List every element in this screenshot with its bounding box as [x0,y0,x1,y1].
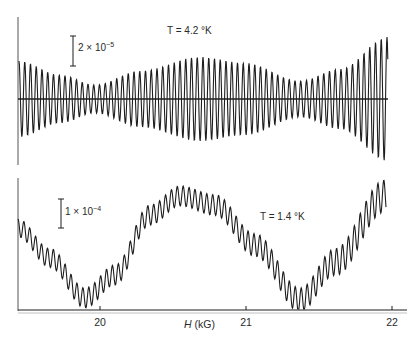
top-scale-bar: 2 × 10−5 [70,36,114,66]
top-scale-exponent: −5 [106,41,114,48]
top-panel: 2 × 10−5 T = 4.2 °K [18,17,388,165]
figure: 2 × 10−5 T = 4.2 °K 1 × 10−4 T = 1.4 °K … [0,0,417,347]
svg-text:2 × 10−5: 2 × 10−5 [78,41,114,53]
svg-text:1 × 10−4: 1 × 10−4 [65,205,101,217]
bottom-oscillation-trace [18,180,386,309]
bottom-scale-bar: 1 × 10−4 [58,199,101,228]
top-scale-label: 2 × 10 [78,42,107,53]
bottom-scale-label: 1 × 10 [65,206,94,217]
x-axis-ticks: 202122 [94,306,398,328]
top-temperature-label: T = 4.2 °K [167,25,212,36]
x-tick-label: 20 [94,316,106,328]
bottom-temperature-label: T = 1.4 °K [260,211,305,222]
bottom-panel: 1 × 10−4 T = 1.4 °K [18,178,407,313]
x-axis-label: H (kG) [184,318,215,330]
x-tick-label: 22 [386,316,398,328]
x-tick-label: 21 [240,316,252,328]
bottom-scale-exponent: −4 [93,205,101,212]
